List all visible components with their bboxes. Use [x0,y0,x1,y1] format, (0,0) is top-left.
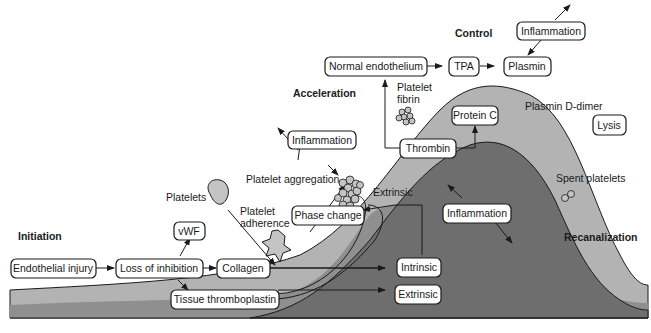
phase-control: Control [455,27,492,39]
platelet-blob-icon [208,180,228,205]
intrinsic-box: Intrinsic [397,258,441,277]
platelet-fibrin-icon [396,107,415,125]
svg-text:Phase change: Phase change [294,209,361,221]
inflammation-acceleration-box: Inflammation [288,131,356,149]
vwf-box: vWF [174,222,205,240]
plasmin-ddimer-label: Plasmin D-dimer [525,100,603,112]
platelet-fibrin-label-1: Platelet [397,81,432,93]
thrombin-box: Thrombin [400,139,456,158]
tissue-thromboplastin-box: Tissue thromboplastin [171,290,279,309]
platelet-fibrin-label-2: fibrin [397,93,420,105]
loss-of-inhibition-box: Loss of inhibition [116,259,203,278]
protein-c-box: Protein C [452,106,498,125]
platelet-adherence-label-1: Platelet [240,205,275,217]
inflammation-center-box: Inflammation [443,204,511,223]
platelets-label: Platelets [166,191,206,203]
tpa-box: TPA [449,57,479,76]
extrinsic-box: Extrinsic [395,285,441,304]
inflammation-control-box: Inflammation [517,22,585,40]
svg-text:Inflammation: Inflammation [292,134,352,146]
lysis-box: Lysis [593,115,626,135]
svg-text:Extrinsic: Extrinsic [398,288,438,300]
spent-platelets-label: Spent platelets [556,172,625,184]
svg-text:Intrinsic: Intrinsic [401,261,437,273]
collagen-box: Collagen [217,259,270,278]
platelet-adherence-label-2: adherence [240,217,290,229]
svg-text:Inflammation: Inflammation [521,25,581,37]
svg-text:Plasmin: Plasmin [508,60,546,72]
activated-platelet-star-icon [262,230,291,262]
svg-text:TPA: TPA [454,60,474,72]
phase-initiation: Initiation [18,230,62,242]
svg-text:Loss of inhibition: Loss of inhibition [120,262,198,274]
svg-text:Inflammation: Inflammation [447,207,507,219]
svg-text:Lysis: Lysis [597,119,621,131]
svg-text:vWF: vWF [178,225,200,237]
phase-acceleration: Acceleration [293,87,356,99]
extrinsic-curve-label: Extrinsic [373,186,413,198]
svg-text:Endothelial injury: Endothelial injury [13,262,94,274]
endothelial-injury-box: Endothelial injury [11,259,96,278]
coagulation-cascade-diagram: Endothelial injury Loss of inhibition Co… [0,0,651,333]
svg-text:Protein C: Protein C [453,109,497,121]
svg-text:Tissue thromboplastin: Tissue thromboplastin [174,293,276,305]
svg-text:Thrombin: Thrombin [406,142,451,154]
svg-text:Normal endothelium: Normal endothelium [329,60,423,72]
plasmin-box: Plasmin [504,57,551,76]
platelet-aggregation-label: Platelet aggregation [246,173,340,185]
normal-endothelium-box: Normal endothelium [325,57,427,76]
svg-text:Collagen: Collagen [222,262,264,274]
phase-recanalization: Recanalization [564,231,638,243]
phase-change-box: Phase change [292,206,364,225]
